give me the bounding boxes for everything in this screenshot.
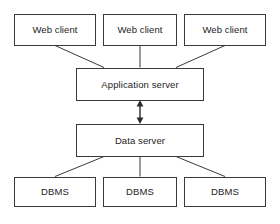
node-dbms-3-label: DBMS xyxy=(211,187,239,197)
connector-web-client-1-to-application-server xyxy=(55,46,104,68)
node-dbms-2[interactable]: DBMS xyxy=(103,177,177,207)
node-web-client-3-label: Web client xyxy=(202,25,247,35)
node-web-client-2[interactable]: Web client xyxy=(103,14,177,46)
node-dbms-3[interactable]: DBMS xyxy=(184,177,266,207)
node-data-server[interactable]: Data server xyxy=(76,124,204,157)
node-dbms-1[interactable]: DBMS xyxy=(14,177,96,207)
node-application-server-label: Application server xyxy=(101,80,178,90)
connector-data-server-to-dbms-1 xyxy=(55,157,104,177)
connector-data-server-to-dbms-3 xyxy=(176,157,225,177)
node-web-client-3[interactable]: Web client xyxy=(184,14,266,46)
architecture-diagram: Web client Web client Web client Applica… xyxy=(0,0,280,224)
node-data-server-label: Data server xyxy=(115,136,165,146)
connector-application-server-to-data-server xyxy=(137,100,144,124)
node-web-client-1-label: Web client xyxy=(32,25,77,35)
node-web-client-1[interactable]: Web client xyxy=(14,14,96,46)
node-application-server[interactable]: Application server xyxy=(76,68,204,101)
node-dbms-1-label: DBMS xyxy=(41,187,69,197)
node-web-client-2-label: Web client xyxy=(117,25,162,35)
figure-caption xyxy=(0,215,280,224)
node-dbms-2-label: DBMS xyxy=(126,187,154,197)
connector-web-client-3-to-application-server xyxy=(176,46,225,68)
